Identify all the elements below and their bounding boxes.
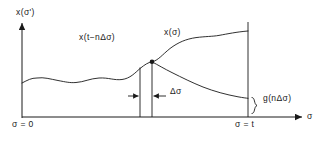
response-curve-label: x(σ) xyxy=(164,28,181,37)
delta-sigma-label: Δσ xyxy=(170,87,182,96)
response-decay-curve xyxy=(152,62,248,99)
input-waveform-curve xyxy=(22,31,248,83)
diagram-canvas xyxy=(0,0,320,141)
convolution-diagram: x(σ') x(t−nΔσ) x(σ) Δσ g(nΔσ) σ = 0 σ = … xyxy=(0,0,320,141)
origin-label: σ = 0 xyxy=(12,120,34,129)
weight-label: g(nΔσ) xyxy=(263,94,291,103)
end-label: σ = t xyxy=(235,120,254,129)
y-axis-label: x(σ') xyxy=(16,8,35,17)
input-signal-label: x(t−nΔσ) xyxy=(79,33,115,42)
x-axis-label: σ xyxy=(307,112,313,121)
g-value-brace xyxy=(252,98,257,114)
